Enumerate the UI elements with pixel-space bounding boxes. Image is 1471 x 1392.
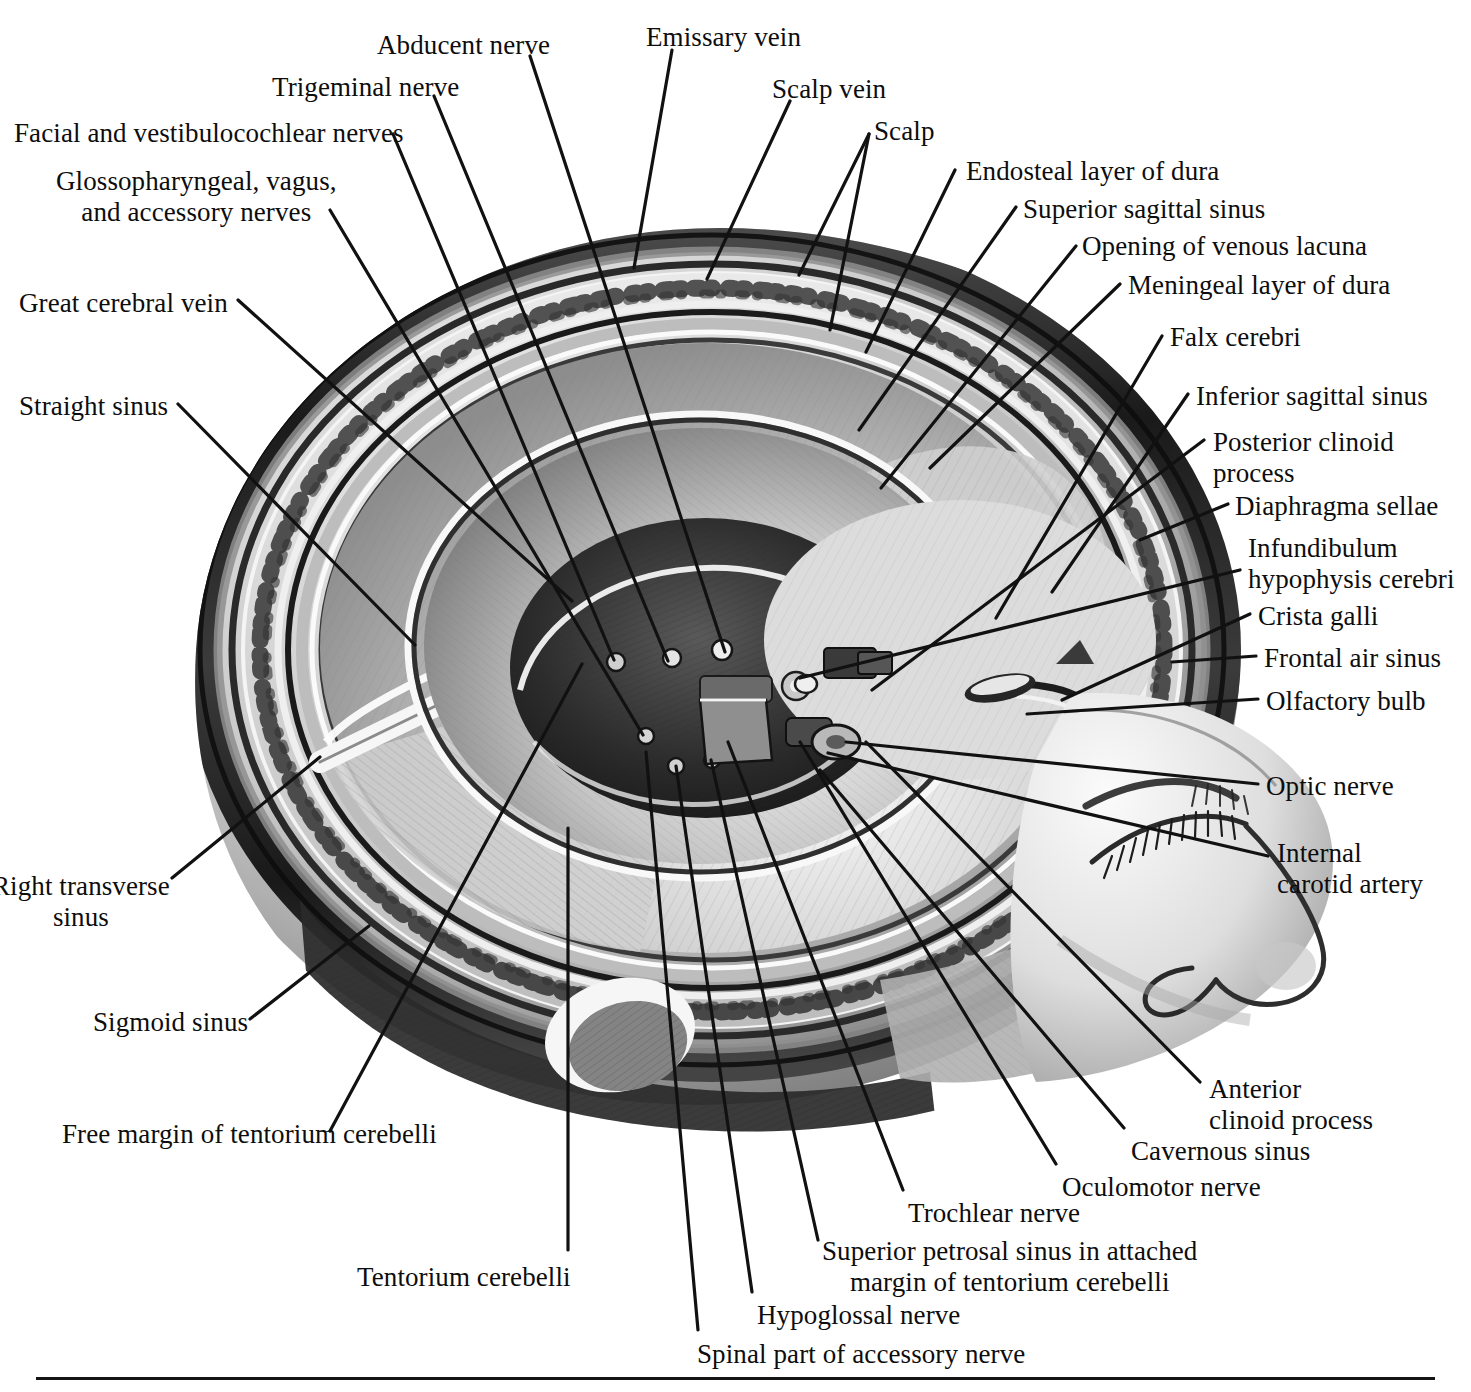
label-line: Meningeal layer of dura (1128, 270, 1390, 301)
bottom-rule (36, 1377, 1435, 1380)
label-line: Optic nerve (1266, 771, 1394, 802)
label-line: Sigmoid sinus (93, 1007, 248, 1038)
label-line: process (1213, 458, 1394, 489)
label-diaphragma-sellae: Diaphragma sellae (1235, 491, 1438, 522)
label-line: sinus (0, 902, 170, 933)
label-line: hypophysis cerebri (1248, 564, 1455, 595)
label-line: Internal (1277, 838, 1423, 869)
label-anterior-clinoid-process: Anteriorclinoid process (1209, 1074, 1373, 1137)
label-emissary-vein: Emissary vein (646, 22, 801, 53)
label-line: Crista galli (1258, 601, 1378, 632)
label-meningeal-layer-of-dura: Meningeal layer of dura (1128, 270, 1390, 301)
label-line: Frontal air sinus (1264, 643, 1441, 674)
label-line: Hypoglossal nerve (757, 1300, 960, 1331)
label-olfactory-bulb: Olfactory bulb (1266, 686, 1426, 717)
label-line: Inferior sagittal sinus (1196, 381, 1428, 412)
label-line: and accessory nerves (56, 197, 337, 228)
label-line: Free margin of tentorium cerebelli (62, 1119, 437, 1150)
label-line: carotid artery (1277, 869, 1423, 900)
label-line: clinoid process (1209, 1105, 1373, 1136)
label-inferior-sagittal-sinus: Inferior sagittal sinus (1196, 381, 1428, 412)
label-line: Glossopharyngeal, vagus, (56, 166, 337, 197)
label-line: Posterior clinoid (1213, 427, 1394, 458)
label-cavernous-sinus: Cavernous sinus (1131, 1136, 1310, 1167)
label-superior-petrosal-sinus: Superior petrosal sinus in attachedmargi… (822, 1236, 1197, 1299)
label-opening-of-venous-lacuna: Opening of venous lacuna (1082, 231, 1367, 262)
label-line: Spinal part of accessory nerve (697, 1339, 1025, 1370)
label-posterior-clinoid-process: Posterior clinoidprocess (1213, 427, 1394, 490)
label-line: Scalp (874, 116, 935, 147)
label-line: Scalp vein (772, 74, 886, 105)
label-great-cerebral-vein: Great cerebral vein (19, 288, 228, 319)
label-line: Trochlear nerve (908, 1198, 1080, 1229)
label-line: Trigeminal nerve (272, 72, 459, 103)
label-line: Diaphragma sellae (1235, 491, 1438, 522)
label-falx-cerebri: Falx cerebri (1170, 322, 1301, 353)
label-glossopharyngeal-vagus-accessory-nerves: Glossopharyngeal, vagus,and accessory ne… (56, 166, 337, 229)
label-facial-vestibulocochlear-nerves: Facial and vestibulocochlear nerves (14, 118, 404, 149)
label-superior-sagittal-sinus: Superior sagittal sinus (1023, 194, 1265, 225)
label-line: Straight sinus (19, 391, 168, 422)
label-crista-galli: Crista galli (1258, 601, 1378, 632)
label-endosteal-layer-of-dura: Endosteal layer of dura (966, 156, 1219, 187)
label-hypoglossal-nerve: Hypoglossal nerve (757, 1300, 960, 1331)
label-line: Right transverse (0, 871, 170, 902)
label-oculomotor-nerve: Oculomotor nerve (1062, 1172, 1261, 1203)
label-internal-carotid-artery: Internalcarotid artery (1277, 838, 1423, 901)
label-line: Facial and vestibulocochlear nerves (14, 118, 404, 149)
label-tentorium-cerebelli: Tentorium cerebelli (357, 1262, 571, 1293)
label-line: Falx cerebri (1170, 322, 1301, 353)
label-infundibulum-hypophysis-cerebri: Infundibulumhypophysis cerebri (1248, 533, 1455, 596)
label-line: Endosteal layer of dura (966, 156, 1219, 187)
label-frontal-air-sinus: Frontal air sinus (1264, 643, 1441, 674)
label-line: Infundibulum (1248, 533, 1455, 564)
label-line: Abducent nerve (377, 30, 550, 61)
label-spinal-part-of-accessory-nerve: Spinal part of accessory nerve (697, 1339, 1025, 1370)
label-line: Opening of venous lacuna (1082, 231, 1367, 262)
label-line: Superior sagittal sinus (1023, 194, 1265, 225)
label-line: Superior petrosal sinus in attached (822, 1236, 1197, 1267)
label-right-transverse-sinus: Right transversesinus (0, 871, 170, 934)
label-line: Olfactory bulb (1266, 686, 1426, 717)
anatomical-plate: Facial and vestibulocochlear nervesGloss… (0, 0, 1471, 1392)
label-line: Tentorium cerebelli (357, 1262, 571, 1293)
label-straight-sinus: Straight sinus (19, 391, 168, 422)
label-optic-nerve: Optic nerve (1266, 771, 1394, 802)
label-abducent-nerve: Abducent nerve (377, 30, 550, 61)
label-trigeminal-nerve: Trigeminal nerve (272, 72, 459, 103)
label-line: Cavernous sinus (1131, 1136, 1310, 1167)
label-sigmoid-sinus: Sigmoid sinus (93, 1007, 248, 1038)
label-scalp: Scalp (874, 116, 935, 147)
label-free-margin-of-tentorium-cerebelli: Free margin of tentorium cerebelli (62, 1119, 437, 1150)
label-line: Great cerebral vein (19, 288, 228, 319)
label-line: margin of tentorium cerebelli (822, 1267, 1197, 1298)
label-line: Anterior (1209, 1074, 1373, 1105)
label-line: Emissary vein (646, 22, 801, 53)
label-line: Oculomotor nerve (1062, 1172, 1261, 1203)
label-scalp-vein: Scalp vein (772, 74, 886, 105)
label-trochlear-nerve: Trochlear nerve (908, 1198, 1080, 1229)
